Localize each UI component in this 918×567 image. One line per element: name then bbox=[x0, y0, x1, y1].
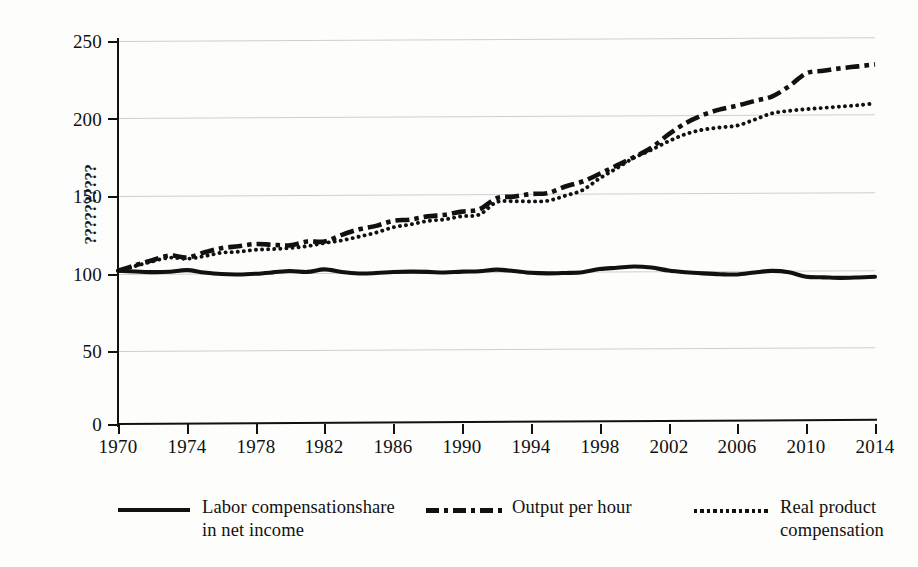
legend-item-labor-compensation-share[interactable]: Labor compensationshare in net income bbox=[112, 496, 412, 542]
legend-item-real-product-compensation[interactable]: Real product compensation bbox=[690, 496, 918, 542]
legend-label-labor-compensation-share: Labor compensationshare in net income bbox=[198, 496, 395, 542]
legend-swatch-dashdot-icon bbox=[422, 500, 508, 522]
legend-swatch-dotted-icon bbox=[690, 500, 776, 522]
legend-label-output-per-hour: Output per hour bbox=[508, 496, 632, 519]
legend-item-output-per-hour[interactable]: Output per hour bbox=[422, 496, 682, 522]
series-layer bbox=[0, 0, 918, 567]
series-line-output-per-hour bbox=[118, 64, 875, 270]
legend-swatch-solid-icon bbox=[112, 500, 198, 522]
legend-label-real-product-compensation: Real product compensation bbox=[776, 496, 884, 542]
chart-figure: ?????????? 250 200 150 100 50 0 1970 197… bbox=[0, 0, 918, 567]
series-line-labor-compensation-share bbox=[118, 266, 875, 277]
chart-legend: Labor compensationshare in net income Ou… bbox=[112, 496, 912, 556]
